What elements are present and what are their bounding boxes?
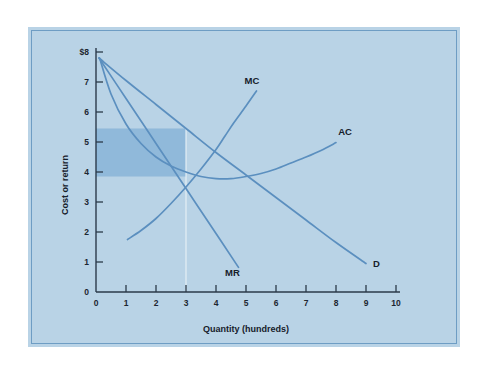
- y-tick-label: 0: [84, 287, 89, 297]
- x-tick-label: 4: [214, 298, 219, 308]
- y-tick-label: 4: [84, 167, 89, 177]
- figure-root: 01234567891001234567$8 DMRACMC Quantity …: [0, 0, 479, 370]
- y-tick-label: 3: [84, 197, 89, 207]
- x-tick-label: 8: [334, 298, 339, 308]
- curve-label-mc: MC: [245, 75, 260, 86]
- curve-label-d: D: [373, 258, 380, 269]
- x-tick-label: 5: [244, 298, 249, 308]
- y-tick-label: 1: [84, 257, 89, 267]
- x-tick-label: 9: [364, 298, 369, 308]
- y-tick-label: 6: [84, 107, 89, 117]
- chart-plot-area: 01234567891001234567$8 DMRACMC Quantity …: [0, 0, 479, 370]
- x-tick-label: 1: [124, 298, 129, 308]
- curve-label-mr: MR: [225, 267, 240, 278]
- x-tick-label: 6: [274, 298, 279, 308]
- curve-label-ac: AC: [338, 126, 352, 137]
- x-tick-label: 10: [391, 298, 401, 308]
- y-axis-title: Cost or return: [60, 155, 70, 215]
- x-tick-label: 0: [94, 298, 99, 308]
- x-tick-label: 3: [184, 298, 189, 308]
- y-tick-label: 2: [84, 227, 89, 237]
- x-axis-title: Quantity (hundreds): [203, 324, 289, 334]
- x-tick-label: 2: [154, 298, 159, 308]
- y-tick-label: 7: [84, 77, 89, 87]
- y-tick-label: 5: [84, 137, 89, 147]
- x-tick-label: 7: [304, 298, 309, 308]
- y-tick-label: $8: [80, 47, 90, 57]
